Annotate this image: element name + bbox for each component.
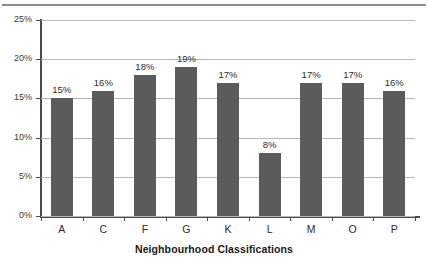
x-axis-title: Neighbourhood Classifications xyxy=(0,243,428,255)
bar-M xyxy=(300,83,322,216)
x-axis-category-label-M: M xyxy=(291,223,331,235)
bar-L xyxy=(259,153,281,216)
x-axis-tick-mark xyxy=(290,217,291,221)
bar-F xyxy=(134,75,156,216)
bar-value-label-P: 16% xyxy=(374,78,414,88)
bar-value-label-C: 16% xyxy=(83,78,123,88)
x-axis-tick-mark xyxy=(83,217,84,221)
x-axis-category-label-A: A xyxy=(42,223,82,235)
bar-chart-figure: 0%5%10%15%20%25% 15%16%18%19%17%8%17%17%… xyxy=(0,0,428,267)
x-axis-category-label-P: P xyxy=(374,223,414,235)
x-axis-tick-mark xyxy=(332,217,333,221)
y-axis-tick-mark xyxy=(36,59,40,60)
bar-P xyxy=(383,91,405,216)
x-axis-tick-mark xyxy=(249,217,250,221)
gridline-20pct xyxy=(41,59,415,60)
x-axis-tick-mark xyxy=(124,217,125,221)
y-axis-tick-label: 10% xyxy=(0,133,32,142)
bar-value-label-O: 17% xyxy=(333,70,373,80)
bar-value-label-A: 15% xyxy=(42,85,82,95)
x-axis-category-label-K: K xyxy=(208,223,248,235)
bar-value-label-L: 8% xyxy=(250,140,290,150)
bar-value-label-M: 17% xyxy=(291,70,331,80)
bar-value-label-G: 19% xyxy=(166,54,206,64)
y-axis-tick-mark xyxy=(36,216,40,217)
y-axis-tick-mark xyxy=(36,138,40,139)
x-axis-tick-mark xyxy=(41,217,42,221)
x-axis-category-label-C: C xyxy=(83,223,123,235)
x-axis-tick-mark xyxy=(373,217,374,221)
y-axis-tick-mark xyxy=(36,98,40,99)
x-axis-category-label-F: F xyxy=(125,223,165,235)
y-axis-tick-mark xyxy=(36,177,40,178)
y-axis-tick-label: 0% xyxy=(0,211,32,220)
bar-G xyxy=(175,67,197,216)
top-divider-rule xyxy=(2,4,426,6)
gridline-25pct xyxy=(41,20,415,21)
y-axis-tick-mark xyxy=(36,20,40,21)
bar-A xyxy=(51,98,73,216)
x-axis-tick-mark xyxy=(415,217,416,221)
gridline-0pct xyxy=(41,216,415,217)
bar-K xyxy=(217,83,239,216)
x-axis-tick-mark xyxy=(207,217,208,221)
bar-value-label-F: 18% xyxy=(125,62,165,72)
y-axis-tick-label: 20% xyxy=(0,54,32,63)
bar-O xyxy=(342,83,364,216)
bar-C xyxy=(92,91,114,216)
x-axis-tick-mark xyxy=(166,217,167,221)
x-axis-category-label-L: L xyxy=(250,223,290,235)
y-axis-tick-label: 15% xyxy=(0,93,32,102)
x-axis-category-label-O: O xyxy=(333,223,373,235)
y-axis-tick-label: 5% xyxy=(0,172,32,181)
y-axis-tick-label: 25% xyxy=(0,15,32,24)
x-axis-category-label-G: G xyxy=(166,223,206,235)
plot-area xyxy=(41,20,415,216)
bar-value-label-K: 17% xyxy=(208,70,248,80)
